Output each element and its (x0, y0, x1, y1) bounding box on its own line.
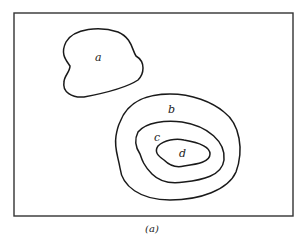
figure-caption: (a) (145, 223, 159, 234)
contour-diagram: a b c d (a) (0, 0, 305, 236)
region-label-a: a (95, 51, 102, 64)
region-label-d: d (179, 147, 186, 160)
region-label-c: c (154, 131, 160, 144)
contour-a (63, 29, 143, 97)
region-label-b: b (168, 103, 175, 116)
diagram-frame (14, 13, 293, 216)
